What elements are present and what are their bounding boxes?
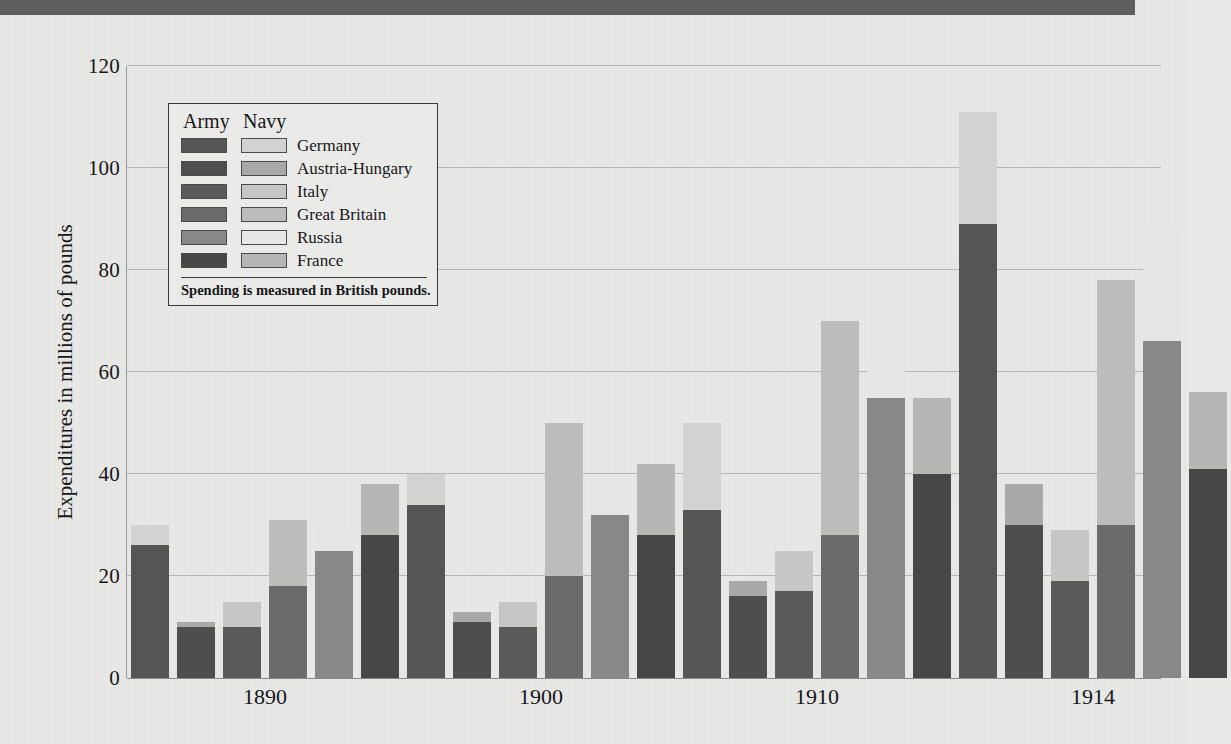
segment-navy	[591, 484, 629, 515]
bar-group-1910: 1910	[679, 66, 955, 678]
legend-label: Italy	[297, 182, 328, 202]
legend-label: Austria-Hungary	[297, 159, 412, 179]
y-tick-label: 20	[99, 564, 120, 589]
legend-row-france: France	[181, 249, 427, 272]
segment-navy	[453, 612, 491, 622]
y-tick-label: 80	[99, 258, 120, 283]
segment-navy	[1051, 530, 1089, 581]
segment-navy	[1143, 229, 1181, 341]
legend-row-austria-hungary: Austria-Hungary	[181, 157, 427, 180]
legend-label: Russia	[297, 228, 342, 248]
bar-austria-hungary-1910	[729, 581, 767, 678]
segment-navy	[223, 602, 261, 628]
y-tick-label: 40	[99, 462, 120, 487]
segment-army	[775, 591, 813, 678]
segment-army	[499, 627, 537, 678]
segment-navy	[821, 321, 859, 535]
bar-great-britain-1890	[269, 520, 307, 678]
bar-austria-hungary-1900	[453, 612, 491, 678]
segment-navy	[959, 112, 997, 224]
segment-navy	[269, 520, 307, 586]
segment-army	[223, 627, 261, 678]
segment-navy	[1189, 392, 1227, 469]
y-axis-label: Expenditures in millions of pounds	[53, 224, 78, 519]
x-tick-label: 1890	[127, 684, 403, 710]
y-tick-label: 120	[88, 54, 120, 79]
segment-army	[591, 515, 629, 678]
legend-row-russia: Russia	[181, 226, 427, 249]
segment-navy	[1005, 484, 1043, 525]
legend-swatch-army	[181, 230, 227, 245]
segment-army	[1051, 581, 1089, 678]
bar-great-britain-1910	[821, 321, 859, 678]
bar-germany-1890	[131, 525, 169, 678]
bar-great-britain-1900	[545, 423, 583, 678]
legend-swatch-army	[181, 207, 227, 222]
segment-navy	[775, 551, 813, 592]
legend-swatch-navy	[241, 253, 287, 268]
segment-army	[177, 627, 215, 678]
segment-army	[1097, 525, 1135, 678]
segment-army	[407, 505, 445, 678]
legend-row-great-britain: Great Britain	[181, 203, 427, 226]
segment-army	[821, 535, 859, 678]
bar-germany-1900	[407, 474, 445, 678]
segment-navy	[499, 602, 537, 628]
bar-italy-1914	[1051, 530, 1089, 678]
bar-france-1900	[637, 464, 675, 678]
bar-russia-1900	[591, 484, 629, 678]
legend-swatch-army	[181, 138, 227, 153]
segment-navy	[867, 362, 905, 398]
legend-rows: GermanyAustria-HungaryItalyGreat Britain…	[181, 134, 427, 272]
legend-label: Great Britain	[297, 205, 386, 225]
segment-army	[913, 474, 951, 678]
legend-row-italy: Italy	[181, 180, 427, 203]
legend-swatch-army	[181, 253, 227, 268]
legend-header-navy: Navy	[243, 110, 305, 133]
segment-army	[453, 622, 491, 678]
segment-army	[315, 551, 353, 679]
segment-navy	[361, 484, 399, 535]
y-tick-label: 100	[88, 156, 120, 181]
bar-great-britain-1914	[1097, 280, 1135, 678]
segment-navy	[637, 464, 675, 535]
bar-france-1914	[1189, 392, 1227, 678]
legend-row-germany: Germany	[181, 134, 427, 157]
segment-army	[729, 596, 767, 678]
legend-note: Spending is measured in British pounds.	[181, 277, 427, 299]
bar-russia-1910	[867, 362, 905, 678]
segment-navy	[1097, 280, 1135, 525]
legend-header-army: Army	[183, 110, 243, 133]
bar-russia-1890	[315, 530, 353, 678]
segment-navy	[683, 423, 721, 510]
legend-label: Germany	[297, 136, 360, 156]
x-tick-label: 1910	[679, 684, 955, 710]
y-tick-label: 0	[109, 666, 120, 691]
legend-swatch-navy	[241, 184, 287, 199]
bar-austria-hungary-1914	[1005, 484, 1043, 678]
segment-army	[867, 398, 905, 679]
bar-italy-1890	[223, 602, 261, 679]
segment-navy	[729, 581, 767, 596]
legend-swatch-navy	[241, 138, 287, 153]
x-tick-label: 1900	[403, 684, 679, 710]
top-banner-bar	[0, 0, 1135, 15]
segment-army	[361, 535, 399, 678]
legend-swatch-navy	[241, 161, 287, 176]
segment-army	[683, 510, 721, 678]
segment-navy	[407, 474, 445, 505]
legend-header: Army Navy	[181, 110, 427, 133]
segment-army	[1005, 525, 1043, 678]
legend-swatch-navy	[241, 230, 287, 245]
segment-navy	[913, 398, 951, 475]
bar-france-1890	[361, 484, 399, 678]
military-spending-chart: Expenditures in millions of pounds 02040…	[0, 15, 1186, 744]
segment-navy	[315, 530, 353, 550]
x-tick-label: 1914	[955, 684, 1231, 710]
bar-france-1910	[913, 398, 951, 679]
bar-germany-1914	[959, 112, 997, 678]
segment-army	[545, 576, 583, 678]
segment-army	[131, 545, 169, 678]
segment-navy	[545, 423, 583, 576]
legend-swatch-army	[181, 184, 227, 199]
